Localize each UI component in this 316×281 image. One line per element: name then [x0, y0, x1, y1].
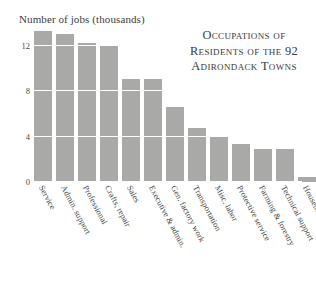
y-tick-label: 8 [4, 86, 30, 96]
bar [276, 149, 294, 182]
x-axis-tick-labels: ServiceAdmin. supportProfessionalCrafts,… [34, 184, 316, 281]
x-tick-label: Service [37, 184, 57, 211]
bar [144, 79, 162, 182]
bar [34, 31, 52, 182]
y-axis-title: Number of jobs (thousands) [19, 13, 145, 25]
y-tick-label: 12 [4, 41, 30, 51]
y-tick-label: 4 [4, 132, 30, 142]
gridline [34, 45, 302, 46]
plot-area [34, 28, 302, 182]
y-tick-label: 0 [4, 177, 30, 187]
bar [210, 137, 228, 182]
bar [100, 46, 118, 182]
bar [232, 144, 250, 183]
bar [122, 79, 140, 182]
x-tick-label: Sales [125, 184, 141, 204]
bar [78, 43, 96, 182]
y-axis-tick-labels: 04812 [0, 28, 30, 182]
bar [166, 107, 184, 182]
bar [56, 34, 74, 182]
gridline [34, 136, 302, 137]
gridline [34, 90, 302, 91]
occupations-bar-chart: Number of jobs (thousands) Occupations o… [0, 0, 316, 281]
axis-baseline [34, 181, 302, 182]
bar [254, 149, 272, 182]
